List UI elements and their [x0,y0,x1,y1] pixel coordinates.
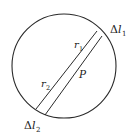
label-r2: r 2 [41,78,50,92]
label-delta-l1: Δ l 1 [110,23,126,38]
label-sub: 1 [122,30,126,38]
label-sub: 1 [79,45,83,53]
label-delta-l2: Δ l 2 [24,119,40,134]
label-r1: r 1 [74,39,83,53]
delta-symbol: Δ [110,23,118,36]
circle [12,14,116,118]
delta-symbol: Δ [24,119,32,132]
label-sub: 2 [46,84,50,92]
chord-line-a [36,31,97,109]
label-point-p: P [78,68,87,80]
label-sub: 2 [36,126,40,134]
diagram-canvas: Δ l 1 r 1 P r 2 Δ l 2 [0,0,129,134]
